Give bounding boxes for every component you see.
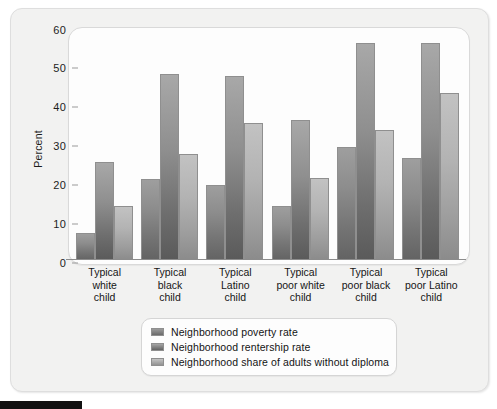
bar xyxy=(95,162,114,260)
y-tick-label-30: 30 xyxy=(36,140,66,152)
bar xyxy=(291,120,310,260)
x-axis-label: Typicalwhitechild xyxy=(72,266,137,304)
x-axis-label: Typicalpoor whitechild xyxy=(268,266,333,304)
legend-item-rentership-rate: Neighborhood rentership rate xyxy=(151,339,387,354)
bar xyxy=(160,74,179,260)
y-tick-label-20: 20 xyxy=(36,179,66,191)
bar xyxy=(244,123,263,260)
x-axis-label: Typicalblackchild xyxy=(137,266,202,304)
legend-item-share-without-diploma: Neighborhood share of adults without dip… xyxy=(151,354,387,369)
bar xyxy=(421,43,440,260)
bar xyxy=(402,158,421,260)
y-axis: Percent 60 50 40 30 20 10 0 xyxy=(36,18,70,270)
bar xyxy=(206,185,225,260)
bar xyxy=(179,154,198,260)
bar-group xyxy=(272,30,330,260)
bar xyxy=(356,43,375,260)
bar-group xyxy=(337,30,395,260)
x-axis-labels: TypicalwhitechildTypicalblackchildTypica… xyxy=(72,266,464,304)
y-tick-mark-0 xyxy=(72,263,78,264)
plot-area xyxy=(72,30,464,260)
chart-legend: Neighborhood poverty rate Neighborhood r… xyxy=(141,318,397,376)
y-tick-label-40: 40 xyxy=(36,101,66,113)
legend-swatch-icon xyxy=(151,358,164,366)
legend-label: Neighborhood rentership rate xyxy=(171,341,310,353)
bar xyxy=(440,93,459,260)
scan-edge-artifact xyxy=(0,401,82,409)
x-axis-label: TypicalLatinochild xyxy=(203,266,268,304)
legend-label: Neighborhood share of adults without dip… xyxy=(171,356,389,368)
x-axis-label: Typicalpoor Latinochild xyxy=(399,266,464,304)
y-tick-label-60: 60 xyxy=(36,24,66,36)
legend-swatch-icon xyxy=(151,343,164,351)
bar-group xyxy=(206,30,264,260)
bar-group xyxy=(141,30,199,260)
bar-group xyxy=(76,30,134,260)
bar xyxy=(337,147,356,260)
bar xyxy=(375,130,394,260)
x-axis-label: Typicalpoor blackchild xyxy=(333,266,398,304)
chart-page: Percent 60 50 40 30 20 10 0 Typicalwhite… xyxy=(0,0,497,409)
x-axis-baseline xyxy=(66,259,466,260)
legend-item-poverty-rate: Neighborhood poverty rate xyxy=(151,324,387,339)
bar xyxy=(310,178,329,260)
bar-group xyxy=(402,30,460,260)
legend-swatch-icon xyxy=(151,328,164,336)
y-tick-label-10: 10 xyxy=(36,218,66,230)
bar xyxy=(141,179,160,260)
y-tick-label-50: 50 xyxy=(36,62,66,74)
legend-label: Neighborhood poverty rate xyxy=(171,326,298,338)
bar xyxy=(225,76,244,260)
bar-groups xyxy=(72,30,464,260)
y-tick-label-0: 0 xyxy=(36,257,66,269)
bar xyxy=(114,206,133,260)
bar xyxy=(76,233,95,260)
bar xyxy=(272,206,291,260)
